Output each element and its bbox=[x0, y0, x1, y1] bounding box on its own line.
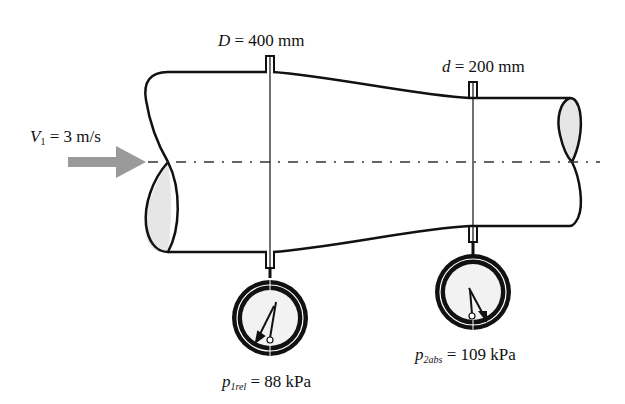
inlet-velocity-label: V1 = 3 m/s bbox=[30, 128, 101, 147]
gauge-2-reading: p2abs = 109 kPa bbox=[415, 346, 516, 365]
gauge-2-value: = 109 kPa bbox=[442, 345, 515, 364]
gauge-1-subscript: 1rel bbox=[231, 381, 247, 392]
gauge-2-symbol: p bbox=[415, 345, 424, 364]
pressure-tap-1 bbox=[266, 56, 274, 278]
pipe-body bbox=[168, 72, 570, 252]
inlet-diameter-symbol: D bbox=[218, 31, 230, 50]
throat-diameter-label: d = 200 mm bbox=[442, 58, 525, 75]
inlet-diameter-label: D = 400 mm bbox=[218, 32, 305, 49]
pressure-tap-2 bbox=[469, 82, 477, 256]
gauge-2-subscript: 2abs bbox=[424, 354, 443, 365]
pressure-gauge-2 bbox=[435, 254, 511, 330]
gauge-1-value: = 88 kPa bbox=[246, 372, 311, 391]
velocity-value: = 3 m/s bbox=[45, 127, 100, 146]
pressure-gauge-1 bbox=[232, 280, 308, 356]
venturi-diagram bbox=[0, 0, 625, 404]
velocity-symbol: V bbox=[30, 127, 40, 146]
gauge-1-reading: p1rel = 88 kPa bbox=[222, 373, 311, 392]
gauge-1-symbol: p bbox=[222, 372, 231, 391]
inlet-diameter-value: = 400 mm bbox=[230, 31, 304, 50]
flow-arrow-icon bbox=[68, 146, 146, 178]
throat-diameter-value: = 200 mm bbox=[451, 57, 525, 76]
throat-diameter-symbol: d bbox=[442, 57, 451, 76]
